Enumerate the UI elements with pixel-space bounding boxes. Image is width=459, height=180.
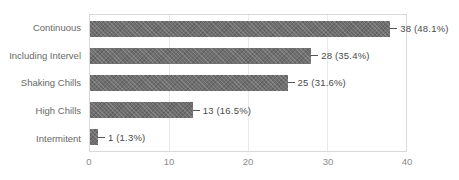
- category-label: High Chills: [0, 97, 85, 125]
- bar: [90, 75, 288, 91]
- bar-chart-figure: Continuous Including Intervel Shaking Ch…: [0, 0, 459, 180]
- annotation-connector-line: [98, 137, 105, 138]
- x-tick-label: 30: [323, 156, 334, 167]
- x-axis: 0 10 20 30 40: [0, 156, 459, 170]
- x-tick-label: 10: [164, 156, 175, 167]
- bar-row: 1 (1.3%): [90, 124, 406, 151]
- bar-row: 28 (35.4%): [90, 42, 406, 69]
- category-label: Including Intervel: [0, 42, 85, 70]
- bar-value-annotation: 25 (31.6%): [298, 77, 346, 88]
- y-axis-category-labels: Continuous Including Intervel Shaking Ch…: [0, 14, 85, 152]
- x-tick-label: 40: [402, 156, 413, 167]
- bar: [90, 102, 193, 118]
- plot-area: 38 (48.1%) 28 (35.4%) 25 (31.6%) 13 (16.…: [89, 14, 407, 152]
- bar: [90, 48, 311, 64]
- category-label: Continuous: [0, 14, 85, 42]
- x-tick-label: 0: [86, 156, 91, 167]
- annotation-connector-line: [390, 28, 397, 29]
- x-tick-label: 20: [243, 156, 254, 167]
- annotation-connector-line: [288, 82, 295, 83]
- bar-row: 13 (16.5%): [90, 97, 406, 124]
- bar-value-annotation: 28 (35.4%): [321, 50, 369, 61]
- bar-value-annotation: 13 (16.5%): [203, 105, 251, 116]
- bar-value-annotation: 1 (1.3%): [108, 132, 146, 143]
- bar: [90, 129, 98, 145]
- bar-row: 38 (48.1%): [90, 15, 406, 42]
- bar-row: 25 (31.6%): [90, 69, 406, 96]
- category-label: Shaking Chills: [0, 69, 85, 97]
- annotation-connector-line: [193, 110, 200, 111]
- annotation-connector-line: [311, 55, 318, 56]
- category-label: Intermitent: [0, 124, 85, 152]
- bar: [90, 21, 390, 37]
- bar-value-annotation: 38 (48.1%): [400, 23, 448, 34]
